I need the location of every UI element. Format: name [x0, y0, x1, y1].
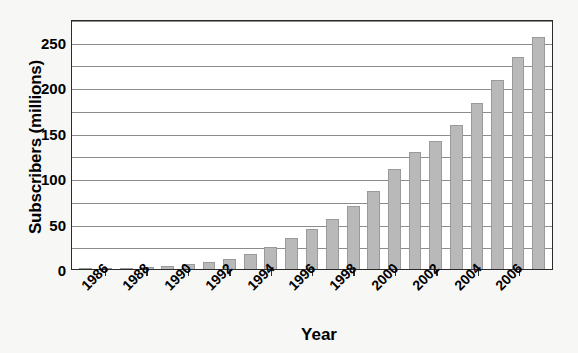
bar-slot [364, 21, 385, 269]
bar [203, 262, 216, 269]
y-axis-tick-label: 0 [16, 262, 66, 279]
bar [347, 206, 360, 269]
y-axis-tick-label: 200 [16, 80, 66, 97]
bar [450, 125, 463, 269]
bar [429, 141, 442, 269]
bar [161, 266, 174, 269]
bar [512, 57, 525, 269]
bar-slot [343, 21, 364, 269]
bar-slot [96, 21, 117, 269]
bar-slot [178, 21, 199, 269]
bar-slot [116, 21, 137, 269]
bar-slot [199, 21, 220, 269]
y-axis-tick-label: 100 [16, 171, 66, 188]
x-axis-tick-labels: 1986198819901992199419961998200020022004… [71, 276, 553, 321]
bar-slot [240, 21, 261, 269]
bar-slot [487, 21, 508, 269]
bar-slot [467, 21, 488, 269]
y-axis-tick-labels: 050100150200250 [16, 20, 66, 270]
bar-slot [446, 21, 467, 269]
bar [388, 169, 401, 269]
bar-chart-figure: Subscribers (millions) 050100150200250 1… [0, 0, 578, 353]
y-axis-tick-label: 150 [16, 125, 66, 142]
bar [244, 254, 257, 269]
bar-slot [137, 21, 158, 269]
bar-slot [260, 21, 281, 269]
bar [326, 219, 339, 269]
plot-area [71, 20, 553, 270]
bar-slot [405, 21, 426, 269]
bar-slot [75, 21, 96, 269]
bar [471, 103, 484, 269]
bar-slot [219, 21, 240, 269]
bar-slot [425, 21, 446, 269]
bar-slot [281, 21, 302, 269]
bar-slot [528, 21, 549, 269]
x-axis-title: Year [0, 325, 578, 345]
bars-layer [72, 21, 552, 269]
y-axis-tick-label: 250 [16, 34, 66, 51]
bar-slot [322, 21, 343, 269]
bar-slot [302, 21, 323, 269]
bar [491, 80, 504, 269]
bar-slot [384, 21, 405, 269]
bar-slot [157, 21, 178, 269]
y-axis-tick-label: 50 [16, 216, 66, 233]
bar [409, 152, 422, 269]
bar [285, 238, 298, 269]
bar [367, 191, 380, 269]
bar-slot [508, 21, 529, 269]
bar [532, 37, 545, 269]
